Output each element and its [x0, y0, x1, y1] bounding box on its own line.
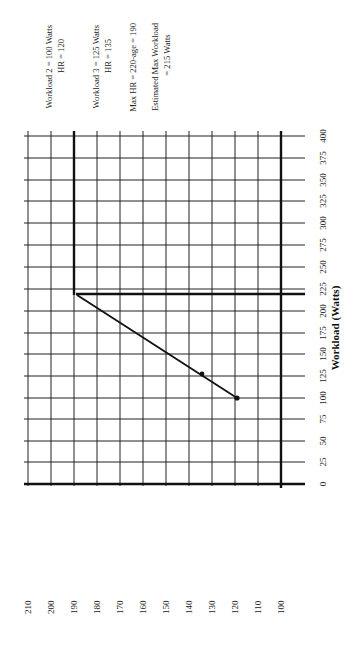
- svg-text:50: 50: [318, 436, 328, 446]
- note-workload-3: Workload 3 = 125 Watts: [91, 24, 101, 108]
- svg-text:275: 275: [318, 238, 328, 252]
- data-point-workload-125: [200, 372, 205, 377]
- data-point-workload-100: [234, 395, 239, 400]
- svg-text:150: 150: [318, 347, 328, 361]
- note-workload-2: Workload 2 = 100 Watts: [44, 24, 54, 108]
- svg-text:210: 210: [23, 600, 33, 614]
- svg-text:75: 75: [318, 414, 328, 424]
- svg-text:160: 160: [138, 600, 148, 614]
- x-axis-title: Workload (Watts): [329, 285, 342, 370]
- svg-text:250: 250: [318, 260, 328, 274]
- svg-text:350: 350: [318, 173, 328, 187]
- note-max-hr: Max HR = 220-age = 190: [128, 23, 138, 112]
- svg-text:200: 200: [46, 600, 56, 614]
- hr-workload-chart: 210 200 190 180 170 160 150 140 130 120 …: [0, 0, 361, 649]
- svg-text:300: 300: [318, 216, 328, 230]
- svg-text:325: 325: [318, 194, 328, 208]
- svg-text:175: 175: [318, 326, 328, 340]
- note-hr-120: HR = 120: [56, 39, 66, 73]
- workload-tick-labels: 0 25 50 75 100 125 150 175 200 225 250 2…: [318, 129, 328, 487]
- svg-text:225: 225: [318, 282, 328, 296]
- svg-text:25: 25: [318, 457, 328, 467]
- note-est-max-workload: Estimated Max Workload: [150, 22, 160, 111]
- annotations: Workload 2 = 100 Watts HR = 120 Workload…: [44, 22, 172, 111]
- note-hr-135: HR = 135: [103, 39, 113, 73]
- svg-text:120: 120: [230, 600, 240, 614]
- svg-text:400: 400: [318, 129, 328, 143]
- svg-text:100: 100: [318, 391, 328, 405]
- svg-text:0: 0: [318, 481, 328, 486]
- note-215-watts: = 215 Watts: [162, 34, 172, 76]
- svg-text:100: 100: [276, 600, 286, 614]
- workload-gridlines: [24, 136, 305, 462]
- hr-tick-labels: 210 200 190 180 170 160 150 140 130 120 …: [23, 600, 286, 614]
- svg-text:200: 200: [318, 304, 328, 318]
- svg-text:125: 125: [318, 369, 328, 383]
- svg-text:170: 170: [115, 600, 125, 614]
- svg-text:110: 110: [253, 600, 263, 614]
- svg-text:150: 150: [161, 600, 171, 614]
- svg-text:180: 180: [92, 600, 102, 614]
- svg-text:140: 140: [184, 600, 194, 614]
- svg-text:130: 130: [207, 600, 217, 614]
- hr-workload-trend-line: [77, 295, 237, 398]
- svg-text:190: 190: [69, 600, 79, 614]
- svg-text:375: 375: [318, 151, 328, 165]
- hr-gridlines: [28, 131, 258, 486]
